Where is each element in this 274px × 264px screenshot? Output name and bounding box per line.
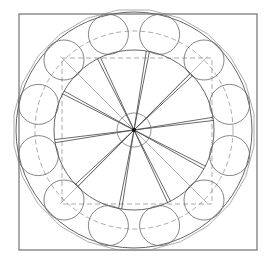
dashed-square (62, 58, 212, 204)
spoke-line (134, 120, 213, 130)
spoke-line (63, 94, 134, 130)
spoke-line (78, 130, 134, 187)
spoke-line (134, 130, 171, 201)
geometric-diagram (0, 0, 274, 264)
spoke-line (55, 130, 134, 140)
diagonal-line (134, 130, 208, 204)
spoke-line (134, 130, 168, 203)
spoke-line (134, 130, 204, 169)
spoke-line (134, 130, 205, 166)
ring-circle (88, 14, 128, 54)
spoke-line (122, 130, 134, 209)
diagonal-line (60, 56, 134, 130)
center-point (132, 128, 136, 132)
ring-circle (88, 206, 128, 246)
spoke-line (134, 51, 146, 130)
spoke-line (100, 57, 134, 130)
spoke-line (97, 59, 134, 130)
spoke-line (64, 91, 134, 130)
spoke-line (134, 73, 190, 130)
